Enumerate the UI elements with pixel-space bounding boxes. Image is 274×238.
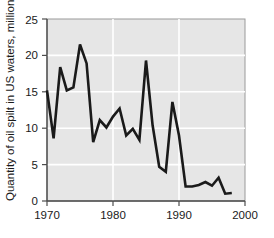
- oil-spill-line-chart-figure: 0 5 10 15 20 25 1970 1980 1990 2000 Quan…: [0, 0, 274, 238]
- ytick-label-5: 5: [32, 159, 38, 171]
- y-axis-title: Quantity of oil spilt in US waters, mill…: [4, 0, 16, 201]
- y-axis-ticks: [42, 19, 47, 201]
- ytick-label-25: 25: [25, 14, 38, 26]
- chart-canvas: 0 5 10 15 20 25 1970 1980 1990 2000 Quan…: [0, 0, 274, 238]
- xtick-label-2000: 2000: [232, 209, 258, 221]
- ytick-label-20: 20: [25, 49, 38, 61]
- x-axis-ticks: [47, 201, 245, 206]
- xtick-label-1990: 1990: [166, 209, 192, 221]
- ytick-label-10: 10: [25, 122, 38, 134]
- ytick-label-15: 15: [25, 86, 38, 98]
- xtick-label-1970: 1970: [34, 209, 60, 221]
- xtick-label-1980: 1980: [100, 209, 126, 221]
- ytick-label-0: 0: [32, 195, 38, 207]
- plot-area-background: [47, 19, 245, 201]
